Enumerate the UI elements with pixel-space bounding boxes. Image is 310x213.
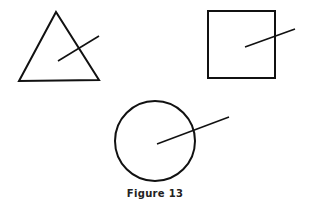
figure-caption: Figure 13 bbox=[0, 188, 310, 199]
triangle-shape bbox=[19, 12, 99, 81]
square-shape bbox=[208, 11, 275, 78]
square-with-line bbox=[208, 11, 295, 78]
triangle-line bbox=[58, 36, 99, 61]
circle-shape bbox=[115, 101, 195, 181]
square-line bbox=[245, 29, 295, 47]
triangle-with-line bbox=[19, 12, 99, 81]
circle-line bbox=[157, 117, 229, 144]
figure-diagram bbox=[0, 0, 310, 213]
circle-with-line bbox=[115, 101, 229, 181]
